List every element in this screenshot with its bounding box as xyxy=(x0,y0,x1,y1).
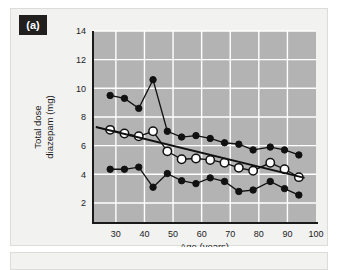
data-point-filled-circle xyxy=(136,164,142,170)
data-point-filled-circle xyxy=(164,170,170,176)
y-tick-label: 2 xyxy=(81,198,86,208)
data-point-open-circle xyxy=(163,147,171,155)
y-tick-label: 10 xyxy=(76,84,86,94)
y-tick-label: 4 xyxy=(81,170,86,180)
chart-plot-area: 246810121430405060708090100Age (years)To… xyxy=(11,9,329,247)
data-point-filled-circle xyxy=(193,132,199,138)
data-point-open-circle xyxy=(149,127,157,135)
data-point-filled-circle xyxy=(221,140,227,146)
data-point-filled-circle xyxy=(150,184,156,190)
data-point-filled-circle xyxy=(107,92,113,98)
data-point-open-circle xyxy=(235,164,243,172)
x-tick-label: 80 xyxy=(254,229,264,239)
data-point-filled-circle xyxy=(136,105,142,111)
data-point-filled-circle xyxy=(207,175,213,181)
data-point-filled-circle xyxy=(236,188,242,194)
data-point-filled-circle xyxy=(150,77,156,83)
data-point-open-circle xyxy=(266,159,274,167)
y-tick-label: 6 xyxy=(81,141,86,151)
x-tick-label: 70 xyxy=(225,229,235,239)
x-tick-label: 60 xyxy=(197,229,207,239)
data-point-filled-circle xyxy=(178,178,184,184)
data-point-filled-circle xyxy=(281,185,287,191)
y-tick-label: 12 xyxy=(76,55,86,65)
data-point-filled-circle xyxy=(281,147,287,153)
diazepam-dose-vs-age-chart: 246810121430405060708090100Age (years)To… xyxy=(11,9,329,247)
data-point-filled-circle xyxy=(250,147,256,153)
data-point-filled-circle xyxy=(221,178,227,184)
y-axis-title-line1: Total dose xyxy=(32,105,43,148)
data-point-open-circle xyxy=(249,167,257,175)
data-point-filled-circle xyxy=(121,95,127,101)
y-tick-label: 8 xyxy=(81,112,86,122)
data-point-filled-circle xyxy=(296,152,302,158)
data-point-open-circle xyxy=(177,155,185,163)
x-axis-title: Age (years) xyxy=(180,241,229,247)
data-point-filled-circle xyxy=(164,128,170,134)
data-point-filled-circle xyxy=(267,178,273,184)
y-tick-label: 14 xyxy=(76,26,86,36)
x-tick-label: 50 xyxy=(168,229,178,239)
data-point-filled-circle xyxy=(107,166,113,172)
data-point-filled-circle xyxy=(193,180,199,186)
x-tick-label: 90 xyxy=(282,229,292,239)
data-point-filled-circle xyxy=(236,141,242,147)
data-point-filled-circle xyxy=(296,192,302,198)
x-tick-label: 40 xyxy=(139,229,149,239)
panel-label: (a) xyxy=(19,15,47,35)
data-point-open-circle xyxy=(206,156,214,164)
data-point-filled-circle xyxy=(121,166,127,172)
data-point-filled-circle xyxy=(267,144,273,150)
figure-panel-b-partial xyxy=(10,252,328,270)
data-point-filled-circle xyxy=(207,135,213,141)
x-tick-label: 100 xyxy=(308,229,323,239)
x-tick-label: 30 xyxy=(111,229,121,239)
data-point-filled-circle xyxy=(250,187,256,193)
y-axis-title-line2: diazepam (mg) xyxy=(44,95,55,158)
data-point-filled-circle xyxy=(178,134,184,140)
data-point-open-circle xyxy=(192,154,200,162)
figure-panel-a: 246810121430405060708090100Age (years)To… xyxy=(10,8,328,246)
